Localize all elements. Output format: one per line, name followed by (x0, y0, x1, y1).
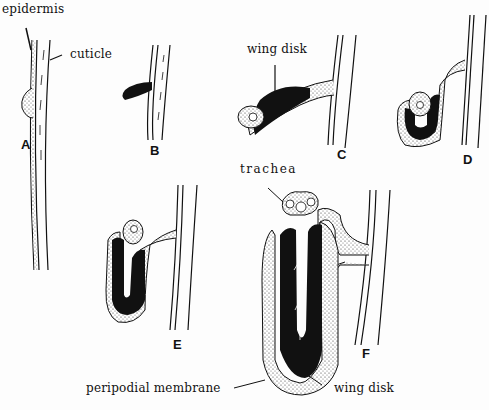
panel-label-e: E (173, 337, 182, 352)
panel-label-c: C (337, 147, 346, 162)
panel-label-d: D (463, 152, 472, 167)
panel-label-f: F (362, 346, 370, 361)
panel-label-a: A (21, 137, 30, 152)
wing-disk-development-diagram (0, 0, 489, 410)
panel-f-drawing (234, 188, 390, 395)
panel-d-drawing (397, 15, 486, 148)
panel-label-b: B (150, 143, 159, 158)
label-peripodial-membrane: peripodial membrane (86, 381, 221, 395)
panel-e-drawing (106, 185, 197, 330)
label-epidermis: epidermis (2, 2, 64, 16)
label-cuticle: cuticle (70, 47, 112, 61)
label-wing-disk-bottom: wing disk (334, 381, 394, 395)
label-wing-disk-top: wing disk (247, 42, 307, 56)
panel-b-drawing (123, 45, 171, 140)
label-trachea: trachea (240, 162, 297, 176)
